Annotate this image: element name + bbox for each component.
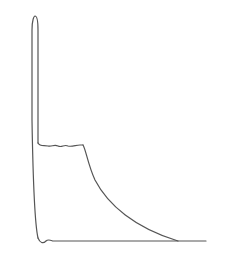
baseline [38,238,206,243]
decay-curve [83,145,178,241]
diagram-canvas [0,0,227,261]
spike-outline [32,16,38,238]
waveform-drawing [0,0,227,261]
wavy-plateau [38,143,83,147]
